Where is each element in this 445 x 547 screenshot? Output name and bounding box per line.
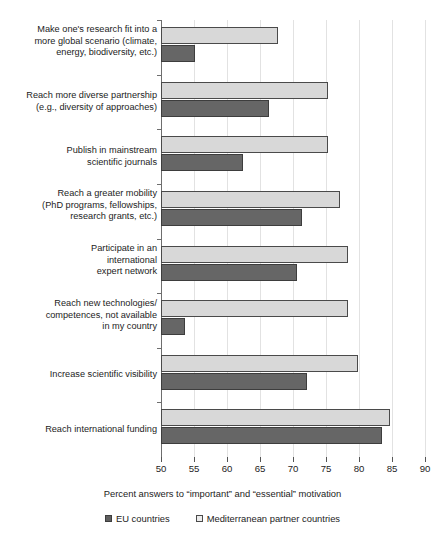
x-axis: 505560657075808590 [161,457,425,477]
category-label: Make one's research fit into a more glob… [0,24,157,59]
x-axis-tick [326,457,327,462]
bar-eu-countries[interactable] [161,209,302,226]
legend-item-eu-countries[interactable]: EU countries [105,513,170,524]
legend-item-mediterranean-partner-countries[interactable]: Mediterranean partner countries [196,513,340,524]
x-axis-tick [425,457,426,462]
x-axis-tick-label: 90 [420,463,431,474]
bar-group [161,20,425,75]
bar-groups [161,20,425,457]
x-axis-tick [392,457,393,462]
category-tick [157,129,161,130]
category-tick [157,239,161,240]
x-axis-tick-label: 65 [255,463,266,474]
category-tick [157,293,161,294]
x-axis-tick-label: 75 [321,463,332,474]
bar-mediterranean-partner-countries[interactable] [161,191,340,208]
category-tick [157,402,161,403]
legend: EU countries Mediterranean partner count… [0,513,445,524]
x-axis-tick [260,457,261,462]
category-label: Reach international funding [0,424,157,436]
category-label: Reach a greater mobility (PhD programs, … [0,188,157,223]
x-axis-tick [194,457,195,462]
bar-eu-countries[interactable] [161,100,269,117]
legend-label: EU countries [116,513,170,524]
plot-area [161,20,425,457]
category-tick [157,348,161,349]
x-axis-tick-label: 85 [387,463,398,474]
category-label: Reach new technologies/ competences, not… [0,298,157,333]
bar-mediterranean-partner-countries[interactable] [161,136,328,153]
light-square-icon [196,515,203,522]
bar-mediterranean-partner-countries[interactable] [161,82,328,99]
bar-mediterranean-partner-countries[interactable] [161,409,390,426]
dark-square-icon [105,515,112,522]
bar-mediterranean-partner-countries[interactable] [161,27,278,44]
category-tick [157,184,161,185]
category-label: Reach more diverse partnership (e.g., di… [0,90,157,113]
x-axis-tick [227,457,228,462]
bar-eu-countries[interactable] [161,45,195,62]
x-axis-tick [293,457,294,462]
bar-chart: Make one's research fit into a more glob… [0,0,445,547]
x-axis-tick [161,457,162,462]
category-tick [157,20,161,21]
category-label: Publish in mainstream scientific journal… [0,145,157,168]
bar-eu-countries[interactable] [161,154,243,171]
x-axis-tick-label: 50 [156,463,167,474]
category-tick [157,75,161,76]
bar-group [161,348,425,403]
x-axis-tick-label: 70 [288,463,299,474]
bar-group [161,129,425,184]
bar-mediterranean-partner-countries[interactable] [161,246,348,263]
gridline [425,20,426,457]
x-axis-title: Percent answers to “important” and “esse… [0,488,445,499]
legend-label: Mediterranean partner countries [207,513,340,524]
x-axis-tick-label: 55 [189,463,200,474]
bar-eu-countries[interactable] [161,427,382,444]
bar-mediterranean-partner-countries[interactable] [161,355,358,372]
x-axis-tick-label: 60 [222,463,233,474]
bar-eu-countries[interactable] [161,318,185,335]
bar-group [161,75,425,130]
bar-mediterranean-partner-countries[interactable] [161,300,348,317]
category-label: Participate in an international expert n… [0,243,157,278]
x-axis-tick [359,457,360,462]
x-axis-tick-label: 80 [354,463,365,474]
bar-eu-countries[interactable] [161,264,297,281]
bar-group [161,293,425,348]
bar-group [161,402,425,457]
category-label: Increase scientific visibility [0,369,157,381]
bar-group [161,184,425,239]
bar-eu-countries[interactable] [161,373,307,390]
bar-group [161,239,425,294]
category-axis-labels: Make one's research fit into a more glob… [0,20,157,457]
